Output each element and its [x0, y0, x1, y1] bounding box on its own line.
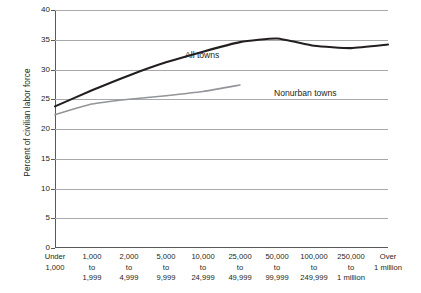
x-axis-category-labels: Under1,0001,000to1,9992,000to4,9995,000t…: [55, 252, 388, 293]
y-tick-label-0: 0: [26, 244, 50, 252]
x-axis-label-8: 250,000to1 million: [331, 252, 371, 284]
x-axis-label-7: 100,000to249,999: [294, 252, 334, 284]
series-paths: [55, 10, 388, 248]
y-tick-label-25: 25: [26, 95, 50, 103]
y-tick-label-10: 10: [26, 185, 50, 193]
y-tick-label-40: 40: [26, 6, 50, 14]
y-tick-label-5: 5: [26, 214, 50, 222]
plot-area: All towns Nonurban towns: [55, 10, 388, 248]
series-label-all-towns: All towns: [185, 51, 219, 60]
series-label-nonurban-towns: Nonurban towns: [274, 89, 337, 98]
x-axis-label-2: 2,000to4,999: [109, 252, 149, 284]
x-axis-label-0: Under1,000: [35, 252, 75, 273]
x-axis-label-4: 10,000to24,999: [183, 252, 223, 284]
y-tick-label-30: 30: [26, 66, 50, 74]
x-axis-label-1: 1,000to1,999: [72, 252, 112, 284]
y-tick-label-35: 35: [26, 36, 50, 44]
y-tick-label-15: 15: [26, 155, 50, 163]
x-axis-label-9: Over1 million: [368, 252, 408, 273]
y-axis-tick-labels: 4035302520151050: [24, 0, 50, 293]
x-axis-label-5: 25,000to49,999: [220, 252, 260, 284]
nonurban-towns-line: [55, 85, 240, 115]
all-towns-line: [55, 39, 388, 107]
y-tick-label-20: 20: [26, 125, 50, 133]
y-tick-mark-0: [51, 248, 55, 249]
line-chart: Percent of civilian labor force 40353025…: [0, 0, 421, 293]
x-axis-label-3: 5,000to9,999: [146, 252, 186, 284]
x-axis-label-6: 50,000to99,999: [257, 252, 297, 284]
